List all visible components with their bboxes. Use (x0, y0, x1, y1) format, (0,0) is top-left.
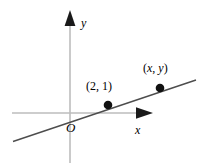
data-point-marker (156, 84, 165, 93)
point-label-x-y: (x, y) (143, 62, 168, 74)
arrow-up-icon (65, 10, 76, 26)
origin-label: O (66, 121, 75, 134)
paren-close: ) (164, 61, 168, 75)
x-axis-label: x (135, 124, 140, 136)
coordinate-plane-figure: y x O (2, 1) (x, y) (0, 0, 203, 163)
y-axis-label: y (81, 17, 86, 29)
arrow-right-icon (136, 107, 153, 119)
point-label-2-1: (2, 1) (86, 80, 112, 92)
paren-close: ) (108, 79, 112, 93)
data-point-marker (104, 101, 113, 110)
